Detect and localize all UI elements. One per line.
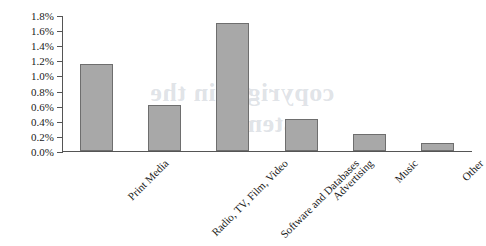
x-axis-label-other: Other — [459, 157, 485, 183]
x-axis-label-radio-tv-film-video: Radio, TV, Film, Video — [209, 157, 290, 238]
y-axis-tick-label: 0.0% — [31, 146, 54, 158]
x-axis-label-print-media: Print Media — [125, 157, 170, 202]
x-axis-label-software-and-databases: Software and Databases — [278, 157, 361, 240]
bar-radio-tv-film-video — [148, 105, 181, 151]
bar-music — [353, 134, 386, 151]
y-axis-tick-label: 1.4% — [31, 40, 54, 52]
y-axis-tick-label: 1.0% — [31, 70, 54, 82]
bar-series — [62, 16, 472, 152]
bar-print-media — [80, 64, 113, 151]
y-axis-tick-label: 0.2% — [31, 131, 54, 143]
y-axis-tick-label: 0.4% — [31, 116, 54, 128]
bar-other — [421, 143, 454, 151]
y-axis-tick-label: 1.2% — [31, 55, 54, 67]
y-axis-tick-label: 1.6% — [31, 25, 54, 37]
bar-advertising — [285, 119, 318, 151]
plot-area: 0.0%0.2%0.4%0.6%0.8%1.0%1.2%1.4%1.6%1.8% — [62, 16, 472, 152]
y-axis-tick-label: 0.8% — [31, 86, 54, 98]
y-axis-tick-label: 0.6% — [31, 101, 54, 113]
x-axis-label-music: Music — [392, 157, 420, 185]
x-axis-category-labels: Print MediaRadio, TV, Film, VideoSoftwar… — [62, 153, 472, 243]
bar-software-and-databases — [216, 23, 249, 151]
y-axis-tick-label: 1.8% — [31, 10, 54, 22]
